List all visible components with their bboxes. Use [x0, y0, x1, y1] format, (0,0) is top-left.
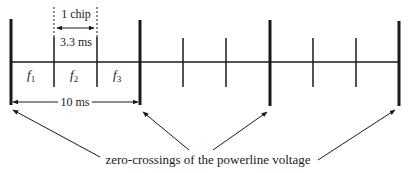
pointer-arrow-2 [143, 112, 189, 150]
caption: zero-crossings of the powerline voltage [105, 152, 310, 167]
frequency-label-f2: f2 [70, 67, 78, 84]
half-cycle-label: 10 ms [60, 95, 89, 109]
chip-label: 1 chip [61, 7, 91, 21]
frequency-label-f1: f1 [27, 67, 35, 84]
chip-duration-label: 3.3 ms [60, 35, 92, 49]
pointer-arrow-4 [318, 110, 395, 160]
pointer-arrow-1 [13, 110, 100, 157]
frequency-label-f3: f3 [113, 67, 122, 84]
pointer-arrow-3 [213, 112, 267, 150]
timing-diagram: 1 chip 3.3 ms f1 f2 f3 10 ms zero-crossi… [0, 0, 408, 173]
